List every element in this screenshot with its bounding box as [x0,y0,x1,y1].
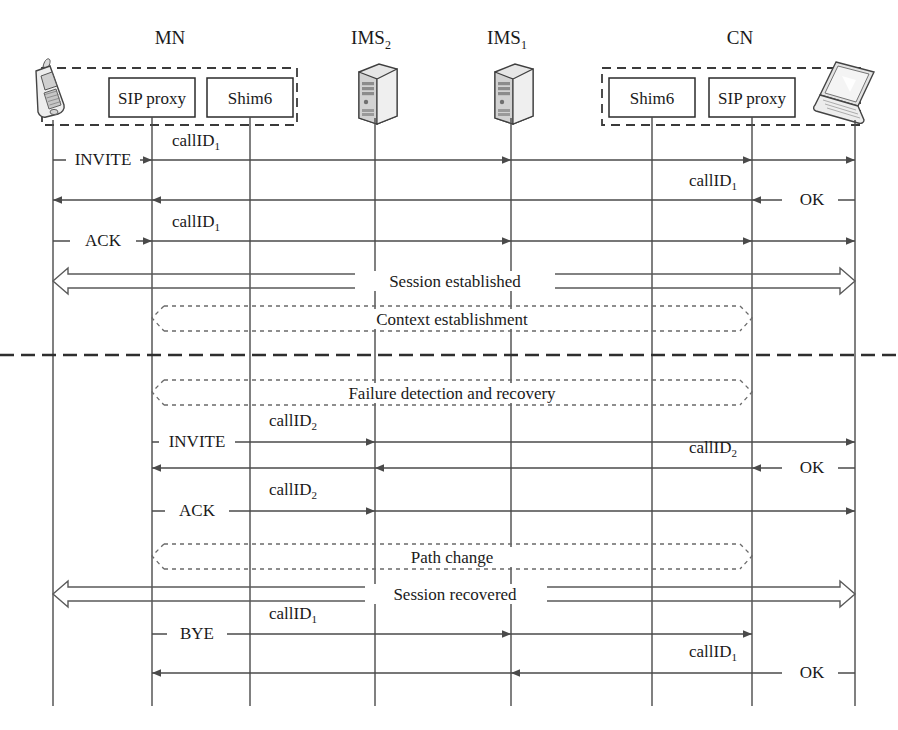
message-ack-1[interactable]: ACK callID1 [53,212,855,251]
group-title-cn: CN [727,27,754,48]
arrowhead [846,156,855,164]
message-bye[interactable]: BYE callID1 [152,604,752,644]
cn-shim6-label: Shim6 [630,89,674,108]
cn-sip-proxy-node[interactable]: SIP proxy [709,78,795,117]
arrowhead [152,669,161,677]
span-label-session-recovered: Session recovered [393,585,517,604]
message-label-ok-2: OK [800,458,825,477]
message-label-invite-2: INVITE [169,432,226,451]
group-title-ims2: IMS2 [351,27,391,52]
span-context-establishment: Context establishment [152,306,752,331]
laptop-icon [814,62,874,123]
arrowhead [502,630,511,638]
cn-sip-proxy-label: SIP proxy [718,89,786,108]
arrowhead [152,464,161,472]
message-label-ack-2: ACK [179,501,216,520]
diagram-svg: MN IMS2 IMS1 CN [0,0,898,730]
lifelines [53,117,855,706]
span-label-path-change: Path change [411,548,494,567]
group-titles: MN IMS2 IMS1 CN [155,27,754,52]
arrowhead [743,237,752,245]
message-callid-invite-1: callID1 [172,131,220,152]
mn-sip-proxy-label: SIP proxy [118,89,186,108]
arrowhead [752,464,761,472]
message-label-bye: BYE [180,624,214,643]
arrowhead [53,196,62,204]
message-callid-bye: callID1 [269,604,317,625]
message-callid-ack-1: callID1 [172,212,220,233]
message-ok-1[interactable]: OK callID1 [53,171,855,210]
mn-shim6-node[interactable]: Shim6 [207,78,293,117]
mn-shim6-label: Shim6 [228,89,272,108]
arrowhead [143,156,152,164]
ims2-server-icon [359,64,397,124]
span-failure-detection: Failure detection and recovery [152,380,752,405]
span-session-recovered: Session recovered [53,581,855,607]
arrowhead [502,237,511,245]
arrowhead [502,156,511,164]
message-label-ack-1: ACK [85,231,122,250]
message-ack-2[interactable]: ACK callID2 [152,480,855,521]
arrowhead [366,507,375,515]
span-label-failure-detection: Failure detection and recovery [348,384,556,403]
arrowhead [152,196,161,204]
arrowhead [375,464,384,472]
span-session-established: Session established [53,268,855,294]
message-invite-1[interactable]: INVITE callID1 [53,131,855,170]
arrowhead [846,438,855,446]
arrowhead [743,630,752,638]
message-label-invite-1: INVITE [75,150,132,169]
span-label-session-established: Session established [389,272,521,291]
ims1-server-icon [495,64,533,124]
span-label-context-establishment: Context establishment [376,310,528,329]
message-ok-final[interactable]: OK callID1 [152,642,855,683]
message-invite-2[interactable]: INVITE callID2 [152,411,855,452]
message-ok-2[interactable]: OK callID2 [152,438,855,478]
message-label-ok-1: OK [800,190,825,209]
sequence-diagram-canvas: MN IMS2 IMS1 CN [0,0,898,730]
message-callid-invite-2: callID2 [269,411,317,432]
group-title-mn: MN [155,27,186,48]
message-callid-ok-final: callID1 [689,642,737,663]
message-callid-ok-2: callID2 [689,438,737,459]
arrowhead [846,237,855,245]
span-path-change: Path change [152,544,752,569]
message-callid-ok-1: callID1 [689,171,737,192]
cn-shim6-node[interactable]: Shim6 [609,78,695,117]
arrowhead [846,507,855,515]
mn-sip-proxy-node[interactable]: SIP proxy [109,78,195,117]
group-title-ims1: IMS1 [487,27,527,52]
arrowhead [743,156,752,164]
arrowhead [511,669,520,677]
arrowhead [752,196,761,204]
arrowhead [143,237,152,245]
arrowhead [366,438,375,446]
message-callid-ack-2: callID2 [269,480,317,501]
message-label-ok-final: OK [800,663,825,682]
